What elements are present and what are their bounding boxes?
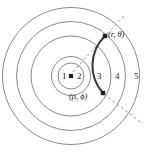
polar-ring-diagram: 1 2 3 4 5 (r, θ) (ρ, ϕ) (0, 0, 151, 152)
trajectory-arc (92, 36, 105, 93)
region-label-5: 5 (134, 72, 139, 81)
region-label-2: 2 (77, 72, 82, 81)
point-marker-r-theta (103, 34, 107, 38)
diagram-canvas (0, 0, 151, 152)
point-label-rho-phi: (ρ, ϕ) (69, 92, 87, 101)
point-label-r-theta: (r, θ) (108, 30, 124, 39)
region-label-4: 4 (115, 72, 120, 81)
origin-dot (69, 74, 73, 78)
region-label-3: 3 (97, 72, 102, 81)
point-marker-rho-phi (101, 91, 105, 95)
region-label-1: 1 (62, 72, 67, 81)
